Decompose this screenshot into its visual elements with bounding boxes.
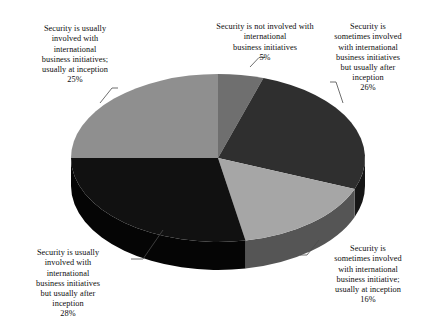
- slice-percent: 25%: [12, 75, 138, 85]
- slice-label-text: Security is usually involved with intern…: [36, 248, 100, 308]
- slice-label-text: Security is sometimes involved with inte…: [334, 244, 402, 294]
- slice-label-usually-after-inception: Security is usually involved with intern…: [4, 238, 132, 320]
- slice-label-text: Security is usually involved with intern…: [42, 24, 108, 74]
- slice-percent: 26%: [306, 83, 430, 93]
- slice-percent: 28%: [4, 309, 132, 319]
- slice-label-sometimes-at-inception: Security is sometimes involved with inte…: [304, 234, 432, 316]
- slice-label-text: Security is sometimes involved with inte…: [334, 22, 402, 82]
- slice-label-text: Security is not involved with internatio…: [216, 22, 313, 51]
- slice-label-usually-at-inception: Security is usually involved with intern…: [12, 14, 138, 96]
- slice-label-sometimes-after-inception: Security is sometimes involved with inte…: [306, 12, 430, 104]
- slice-percent: 16%: [304, 295, 432, 305]
